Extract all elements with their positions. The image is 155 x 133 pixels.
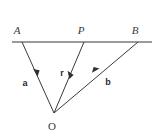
- point-label-b: B: [132, 24, 139, 36]
- point-label-a: A: [13, 24, 21, 36]
- point-label-p: P: [77, 24, 85, 36]
- point-label-o: O: [48, 120, 56, 132]
- vector-label-a: a: [22, 78, 28, 88]
- vector-label-r: r: [60, 68, 64, 78]
- vector-b-line: [54, 42, 138, 113]
- vector-label-b: b: [105, 77, 111, 87]
- vector-a-arrowhead: [33, 69, 39, 77]
- vector-diagram-canvas: A P B O a r b: [0, 0, 155, 133]
- vector-b-arrowhead: [92, 67, 100, 73]
- vector-diagram-figure: A P B O a r b: [0, 0, 155, 133]
